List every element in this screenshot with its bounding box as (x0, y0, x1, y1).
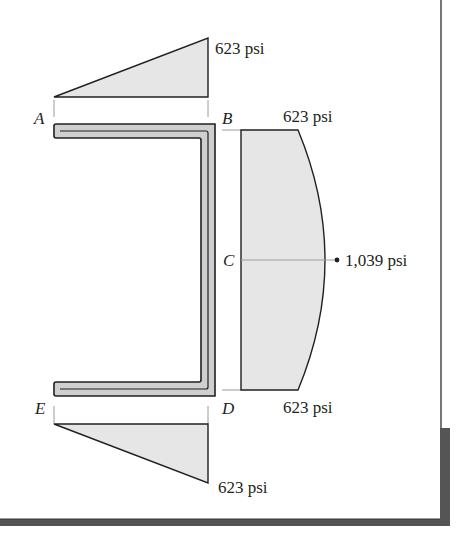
top-flange-stress-diagram: 623 psi (54, 38, 265, 117)
point-b-label: B (222, 109, 233, 128)
stress-diagram-figure: 623 psi A B C D E 623 psi 1,039 psi 623 … (0, 0, 460, 536)
point-a-label: A (33, 109, 45, 128)
web-bottom-label: 623 psi (283, 398, 333, 417)
point-c-label: C (223, 251, 235, 270)
channel-section (54, 124, 215, 396)
point-d-label: D (221, 399, 235, 418)
web-mid-label: 1,039 psi (345, 251, 408, 270)
point-e-label: E (34, 399, 46, 418)
web-top-label: 623 psi (283, 107, 333, 126)
bottom-flange-max-label: 623 psi (218, 478, 268, 497)
web-stress-diagram: 623 psi 1,039 psi 623 psi (222, 107, 408, 417)
bottom-flange-stress-diagram: 623 psi (54, 406, 268, 497)
top-flange-max-label: 623 psi (215, 39, 265, 58)
